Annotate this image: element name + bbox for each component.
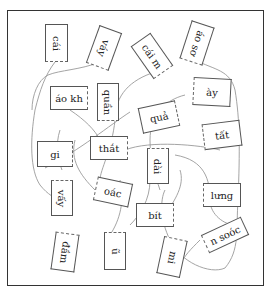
card-text: oác [103,185,122,199]
word-card-gi[interactable]: gi [37,141,73,167]
word-card-u[interactable]: ũ [104,232,126,270]
card-text: đầm [58,240,72,263]
card-text: mi [165,250,178,265]
word-card-quan[interactable]: quần [97,83,119,121]
card-text: dài [153,158,164,174]
card-text: ũ [109,248,120,254]
card-text: gi [50,149,60,160]
word-card-cai[interactable]: cái [45,24,68,62]
card-text: áo sơ [188,29,207,57]
word-card-lung[interactable]: lưng [203,183,241,207]
card-text: tất [214,129,229,142]
card-text: quần [103,89,114,114]
word-card-dai[interactable]: dài [147,148,169,184]
card-text: cái [51,36,62,51]
card-text: áo kh [55,93,83,104]
card-text: thắt [99,143,119,154]
word-card-ao-kh[interactable]: áo kh [50,86,88,110]
card-text: váy [96,38,112,58]
card-text: bít [148,210,162,221]
word-card-that[interactable]: thắt [90,136,128,160]
word-card-tat[interactable]: tất [202,120,243,150]
card-text: quả [149,110,170,125]
card-text: ày [206,86,218,98]
word-card-vay-2[interactable]: vấy [51,180,73,216]
card-text: lưng [211,190,233,201]
card-text: vấy [57,189,68,206]
word-card-ay[interactable]: ày [192,77,231,107]
word-card-bit[interactable]: bít [136,203,174,227]
